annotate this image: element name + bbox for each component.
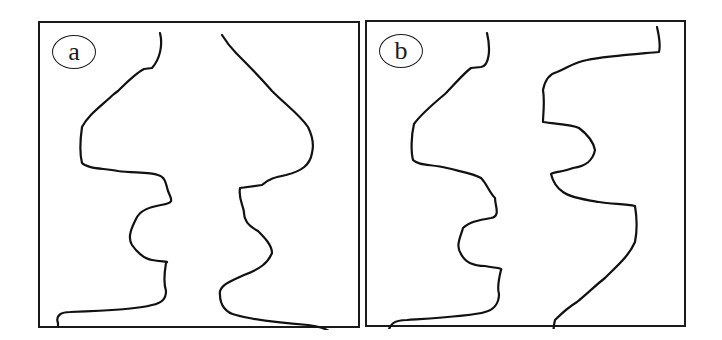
right-boundary-b <box>543 27 660 329</box>
panel-a: a <box>38 21 360 328</box>
panel-b-curves <box>367 22 688 329</box>
left-boundary-a <box>57 33 171 326</box>
left-boundary-b <box>389 33 502 329</box>
panel-b: b <box>365 20 686 327</box>
right-boundary-a <box>220 35 336 330</box>
panel-a-curves <box>40 23 362 330</box>
